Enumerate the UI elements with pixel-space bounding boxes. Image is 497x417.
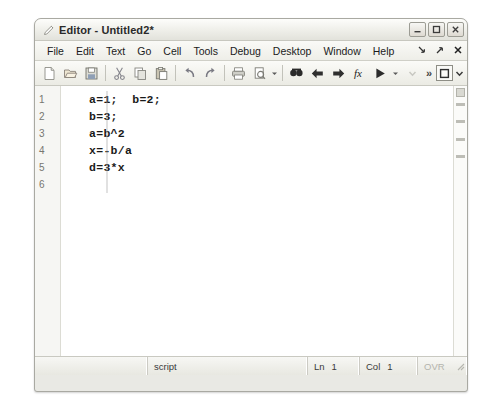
minimize-button[interactable] xyxy=(409,22,426,37)
menu-item-file[interactable]: File xyxy=(41,43,70,59)
status-line-value: 1 xyxy=(332,361,337,372)
resize-grip-icon[interactable] xyxy=(455,361,465,373)
line-number: 6 xyxy=(35,176,60,193)
toolbar-right-controls: » xyxy=(424,63,464,83)
window-title-bar[interactable]: Editor - Untitled2* xyxy=(35,19,467,41)
status-column-indicator: Col 1 xyxy=(359,357,417,375)
line-number: 4 xyxy=(35,142,60,159)
code-line[interactable] xyxy=(61,176,453,193)
status-blank-cell xyxy=(35,357,147,375)
toolbar-overflow-icon[interactable]: » xyxy=(424,68,434,79)
menu-bar: File Edit Text Go Cell Tools Debug Deskt… xyxy=(35,41,467,61)
svg-text:fx: fx xyxy=(354,67,362,79)
menu-item-go[interactable]: Go xyxy=(131,43,157,59)
code-analyzer-mark[interactable] xyxy=(456,103,465,106)
menu-item-text[interactable]: Text xyxy=(100,43,131,59)
editor-body: 1 2 3 4 5 6 a=1; b=2; b=3; a=b^2 x=-b/a … xyxy=(35,86,467,357)
save-file-icon[interactable] xyxy=(81,63,102,83)
code-analyzer-mark[interactable] xyxy=(456,155,465,158)
menu-item-cell[interactable]: Cell xyxy=(157,43,187,59)
code-line[interactable]: b=3; xyxy=(61,108,453,125)
code-analyzer-mark[interactable] xyxy=(456,120,465,123)
print-icon[interactable] xyxy=(228,63,249,83)
window-controls xyxy=(409,22,464,37)
menu-item-edit[interactable]: Edit xyxy=(70,43,100,59)
editor-window: Editor - Untitled2* xyxy=(34,18,468,392)
new-file-icon[interactable] xyxy=(39,63,60,83)
screenshot-root: Editor - Untitled2* xyxy=(0,0,497,417)
disabled-chevron-down-icon xyxy=(408,63,417,83)
code-analyzer-strip[interactable] xyxy=(453,86,467,356)
dock-chevron-down-icon[interactable] xyxy=(455,63,464,83)
run-icon[interactable] xyxy=(370,63,391,83)
status-col-label: Col xyxy=(366,361,380,372)
status-file-type: script xyxy=(147,357,307,375)
forward-arrow-icon[interactable] xyxy=(328,63,349,83)
menu-item-desktop[interactable]: Desktop xyxy=(267,43,318,59)
status-col-value: 1 xyxy=(387,361,392,372)
toolbar-separator xyxy=(175,65,176,81)
menu-item-help[interactable]: Help xyxy=(367,43,401,59)
line-number-gutter: 1 2 3 4 5 6 xyxy=(35,86,61,356)
copy-icon[interactable] xyxy=(130,63,151,83)
find-icon[interactable] xyxy=(286,63,307,83)
menu-item-debug[interactable]: Debug xyxy=(224,43,267,59)
print-options-chevron-down-icon[interactable] xyxy=(270,63,279,83)
dock-window-icon[interactable] xyxy=(436,65,453,81)
menu-item-window[interactable]: Window xyxy=(317,43,366,59)
maximize-button[interactable] xyxy=(428,22,445,37)
code-analyzer-summary-box[interactable] xyxy=(456,88,465,97)
open-file-icon[interactable] xyxy=(60,63,81,83)
line-number: 3 xyxy=(35,125,60,142)
toolbar-separator xyxy=(282,65,283,81)
line-number: 1 xyxy=(35,91,60,108)
code-line[interactable]: a=b^2 xyxy=(61,125,453,142)
function-browser-icon[interactable]: fx xyxy=(349,63,370,83)
mdi-restore-button[interactable] xyxy=(416,44,427,56)
run-options-chevron-down-icon[interactable] xyxy=(391,63,400,83)
code-analyzer-mark[interactable] xyxy=(456,138,465,141)
cut-icon[interactable] xyxy=(109,63,130,83)
code-line[interactable]: a=1; b=2; xyxy=(61,91,453,108)
print-preview-icon[interactable] xyxy=(249,63,270,83)
toolbar-separator xyxy=(105,65,106,81)
line-number: 5 xyxy=(35,159,60,176)
close-button[interactable] xyxy=(447,22,464,37)
code-text-area[interactable]: a=1; b=2; b=3; a=b^2 x=-b/a d=3*x xyxy=(61,86,453,356)
status-line-label: Ln xyxy=(314,361,325,372)
mdi-window-controls xyxy=(416,44,463,56)
redo-icon[interactable] xyxy=(200,63,221,83)
code-line[interactable]: d=3*x xyxy=(61,159,453,176)
paste-icon[interactable] xyxy=(151,63,172,83)
status-bar: script Ln 1 Col 1 OVR xyxy=(35,357,467,375)
line-number: 2 xyxy=(35,108,60,125)
back-arrow-icon[interactable] xyxy=(307,63,328,83)
indent-guide xyxy=(106,91,108,193)
undo-icon[interactable] xyxy=(179,63,200,83)
code-line[interactable]: x=-b/a xyxy=(61,142,453,159)
mdi-undock-button[interactable] xyxy=(434,44,445,56)
toolbar: fx » xyxy=(35,61,467,86)
window-title-text: Editor - Untitled2* xyxy=(59,24,154,36)
toolbar-separator xyxy=(224,65,225,81)
pencil-editor-icon xyxy=(42,23,55,36)
mdi-close-button[interactable] xyxy=(452,44,463,56)
status-line-indicator: Ln 1 xyxy=(307,357,359,375)
menu-item-tools[interactable]: Tools xyxy=(187,43,224,59)
